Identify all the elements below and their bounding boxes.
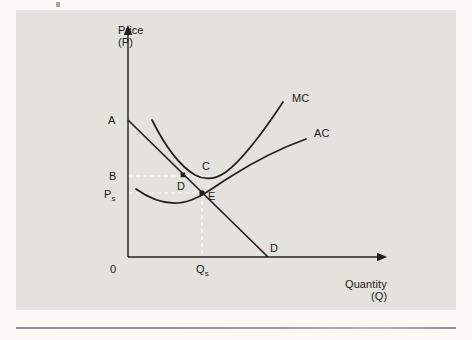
average-cost-curve	[136, 139, 306, 203]
y-axis-title-unit: (P)	[118, 36, 133, 48]
price-b-label: B	[109, 170, 116, 182]
price-ps-subscript: s	[111, 194, 115, 203]
origin-label: 0	[110, 263, 116, 275]
y-axis-title: Price	[118, 24, 144, 36]
curve-label-d: D	[270, 242, 278, 254]
quantity-qs-subscript: s	[205, 269, 209, 278]
point-label-c: C	[202, 160, 210, 172]
point-label-d: D	[177, 180, 185, 192]
quantity-qs-label: Qs	[196, 263, 209, 278]
marginal-cost-curve	[152, 102, 283, 179]
point-label-e: E	[208, 190, 215, 202]
page-bottom-rule	[16, 327, 456, 329]
demand-curve	[128, 120, 268, 257]
axis-group	[128, 34, 378, 257]
curve-label-mc: MC	[292, 92, 309, 104]
x-axis-title-unit: (Q)	[371, 290, 387, 302]
quantity-qs-main: Q	[196, 263, 205, 275]
figure-root: Price (P) Quantity (Q) 0 Qs A B Ps C D E…	[0, 0, 472, 340]
x-axis-title: Quantity	[345, 278, 387, 290]
price-a-label: A	[108, 114, 115, 126]
economics-diagram	[0, 0, 472, 340]
point-marker-e	[199, 190, 204, 195]
price-ps-label: Ps	[104, 188, 116, 203]
curve-label-ac: AC	[314, 127, 329, 139]
point-marker-d	[181, 173, 186, 178]
